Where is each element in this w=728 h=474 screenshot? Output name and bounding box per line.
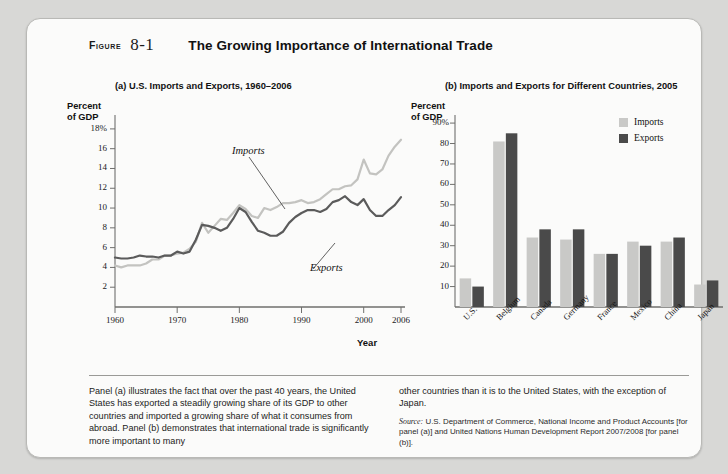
panel-a-y-tick: 8 — [63, 222, 107, 232]
caption-left-text: Panel (a) illustrates the fact that over… — [89, 385, 381, 447]
panel-a-x-tick: 2006 — [388, 315, 414, 325]
panel-a-y-tick: 14 — [63, 162, 107, 172]
panel-a-y-tick: 10 — [63, 202, 107, 212]
bar-imports-japan — [694, 285, 706, 307]
page-background: FIGURE 8-1 The Growing Importance of Int… — [0, 0, 728, 474]
source-text: U.S. Department of Commerce, National In… — [399, 417, 688, 447]
panel-b-y-tick: 30 — [405, 240, 449, 250]
bar-exports-canada — [539, 229, 551, 307]
caption-right-text: other countries than it is to the United… — [399, 385, 691, 410]
panel-a-y-tick: 2 — [63, 281, 107, 291]
panel-a-y-tick: 16 — [63, 143, 107, 153]
panel-b-y-tick: 80 — [405, 138, 449, 148]
panel-b-y-tick: 70 — [405, 158, 449, 168]
source-prefix: Source: — [399, 417, 423, 426]
legend-label-exports: Exports — [634, 133, 664, 143]
panel-b-y-tick: 50 — [405, 199, 449, 209]
panel-a-x-tick: 1980 — [226, 315, 252, 325]
legend-swatch-exports — [619, 134, 628, 143]
panel-a-y-tick: 18% — [63, 123, 107, 133]
figure-label: FIGURE — [89, 39, 121, 51]
legend-label-imports: Imports — [634, 117, 664, 127]
bar-exports-us — [472, 287, 484, 307]
panel-a-title: (a) U.S. Imports and Exports, 1960–2006 — [115, 81, 292, 91]
bar-exports-china — [673, 238, 685, 307]
bar-exports-belgium — [506, 133, 517, 307]
bar-imports-belgium — [493, 141, 505, 307]
bar-imports-mexico — [627, 242, 639, 307]
legend-item-exports: Exports — [619, 133, 664, 143]
panel-a-tick-marks — [110, 129, 401, 313]
bar-imports-china — [661, 242, 673, 307]
figure-number: 8-1 — [130, 35, 154, 55]
panel-b-bars — [460, 133, 719, 307]
panel-a-x-tick: 1960 — [102, 315, 128, 325]
panel-a-y-tick: 4 — [63, 261, 107, 271]
panel-b-y-tick: 60 — [405, 178, 449, 188]
panel-b-y-tick: 20 — [405, 260, 449, 270]
figure-title: The Growing Importance of International … — [188, 38, 493, 53]
caption-right-column: other countries than it is to the United… — [399, 385, 691, 448]
bar-imports-france — [594, 254, 606, 307]
figure-caption: Panel (a) illustrates the fact that over… — [89, 385, 693, 448]
bar-imports-germany — [560, 240, 572, 307]
panel-a-y-tick: 6 — [63, 242, 107, 252]
caption-divider — [89, 375, 689, 376]
panel-b-y-tick: 10 — [405, 281, 449, 291]
panel-b-y-tick: 40 — [405, 219, 449, 229]
panel-b-title: (b) Imports and Exports for Different Co… — [445, 81, 677, 91]
source-note: Source: U.S. Department of Commerce, Nat… — [399, 417, 691, 448]
panel-a-x-axis-title: Year — [357, 337, 377, 348]
legend-item-imports: Imports — [619, 117, 664, 127]
bar-imports-us — [460, 278, 472, 307]
panel-b-tick-marks — [450, 123, 455, 286]
figure-header: FIGURE 8-1 The Growing Importance of Int… — [27, 29, 701, 61]
figure-card: FIGURE 8-1 The Growing Importance of Int… — [26, 18, 702, 458]
panel-a-imports-annotation: Imports — [232, 145, 265, 156]
panel-a-axes — [115, 115, 405, 307]
legend-swatch-imports — [619, 118, 628, 127]
panel-a-exports-annotation: Exports — [310, 262, 343, 273]
panel-b-legend: ImportsExports — [619, 117, 664, 149]
panel-b-y-tick: 90% — [405, 117, 449, 127]
panel-a-x-tick: 1970 — [164, 315, 190, 325]
bar-imports-canada — [527, 238, 539, 307]
panel-a-x-tick: 1990 — [289, 315, 315, 325]
caption-left-column: Panel (a) illustrates the fact that over… — [89, 385, 381, 448]
panel-a-series-lines — [115, 140, 401, 268]
panel-a-y-tick: 12 — [63, 182, 107, 192]
panel-a-x-tick: 2000 — [351, 315, 377, 325]
